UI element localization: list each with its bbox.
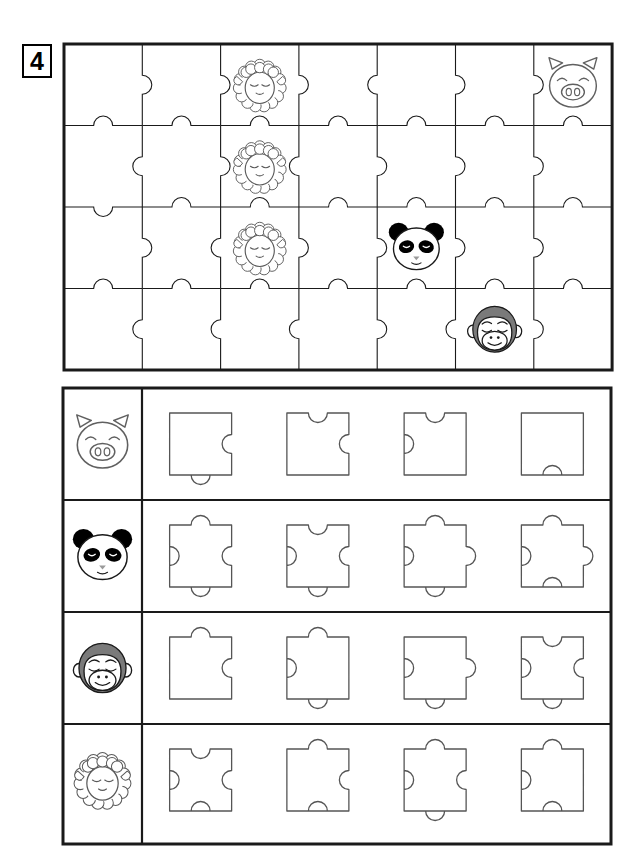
board-edge-vertical (289, 126, 299, 208)
tray-puzzle-piece[interactable] (404, 413, 466, 475)
puzzle-board-container[interactable] (62, 42, 616, 374)
tray-puzzle-piece[interactable] (404, 637, 476, 709)
board-grid (64, 44, 612, 370)
board-edge-horizontal (534, 116, 612, 126)
board-edge-horizontal (377, 116, 455, 126)
board-edge-horizontal (534, 279, 612, 289)
board-edge-vertical (289, 289, 299, 371)
tray-puzzle-piece[interactable] (521, 516, 593, 588)
board-edge-vertical (534, 289, 544, 371)
tray-puzzle-piece[interactable] (521, 413, 583, 475)
tray-puzzle-piece[interactable] (170, 628, 232, 700)
board-edge-vertical (456, 207, 466, 289)
board-edge-horizontal (456, 198, 534, 208)
tray-puzzle-piece[interactable] (170, 749, 232, 811)
tray-puzzle-piece[interactable] (521, 637, 583, 709)
board-edge-vertical (211, 207, 220, 289)
board-edge-vertical (299, 207, 309, 289)
tray-puzzle-piece[interactable] (404, 740, 466, 821)
board-edge-horizontal (299, 279, 377, 289)
board-edge-vertical (377, 126, 387, 208)
board-edge-vertical (221, 126, 231, 208)
board-edge-vertical (377, 207, 387, 289)
board-edge-horizontal (299, 116, 377, 126)
board-edge-vertical (456, 44, 466, 126)
board-edge-horizontal (299, 198, 377, 208)
tray-puzzle-piece[interactable] (170, 413, 232, 485)
tray-puzzle-piece[interactable] (287, 525, 349, 597)
tray-puzzle-piece[interactable] (287, 740, 349, 812)
board-piece-pig (549, 58, 597, 107)
board-edge-horizontal (142, 279, 220, 289)
tray-label-monkey (73, 643, 131, 692)
board-edge-horizontal (377, 198, 455, 208)
tray-puzzle-piece[interactable] (404, 516, 476, 597)
board-edge-vertical (368, 44, 378, 126)
board-edge-horizontal (221, 198, 299, 208)
answer-tray-container[interactable] (61, 386, 615, 848)
tray-label-panda (73, 529, 132, 579)
board-edge-vertical (534, 207, 544, 289)
board-edge-horizontal (534, 198, 612, 208)
board-edge-vertical (221, 44, 231, 126)
board-edge-horizontal (64, 279, 142, 289)
board-edge-vertical (133, 126, 143, 208)
board-edge-vertical (377, 289, 387, 371)
board-edge-vertical (299, 44, 309, 126)
board-edge-vertical (142, 207, 152, 289)
tray-label-sheep (74, 753, 131, 810)
board-edge-vertical (534, 126, 544, 208)
board-piece-sheep (233, 141, 286, 194)
board-edge-horizontal (377, 279, 455, 289)
board-edge-vertical (211, 289, 220, 371)
board-edge-vertical (142, 44, 152, 126)
exercise-number-badge: 4 (22, 44, 52, 78)
tray-puzzle-piece[interactable] (287, 413, 349, 475)
board-edge-vertical (534, 44, 544, 126)
board-edge-horizontal (221, 279, 299, 289)
tray-puzzle-piece[interactable] (170, 516, 232, 597)
board-piece-sheep (233, 222, 286, 275)
board-edge-horizontal (64, 207, 142, 217)
tray-label-pig (77, 415, 129, 468)
board-piece-sheep (233, 59, 286, 112)
board-edge-horizontal (142, 116, 220, 126)
worksheet-page: 4 (0, 0, 644, 852)
answer-tray-svg[interactable] (61, 386, 615, 848)
board-piece-monkey (468, 306, 522, 352)
board-edge-horizontal (456, 279, 534, 289)
board-edge-horizontal (64, 116, 142, 126)
board-edge-horizontal (221, 116, 299, 126)
board-edge-vertical (456, 126, 466, 208)
board-edge-horizontal (456, 116, 534, 126)
tray-puzzle-piece[interactable] (287, 628, 349, 709)
tray-puzzle-piece[interactable] (521, 740, 583, 812)
board-edge-horizontal (142, 198, 220, 208)
board-piece-panda (389, 223, 444, 270)
board-edge-vertical (446, 289, 455, 371)
board-edge-vertical (133, 289, 143, 371)
puzzle-board-svg[interactable] (62, 42, 616, 374)
